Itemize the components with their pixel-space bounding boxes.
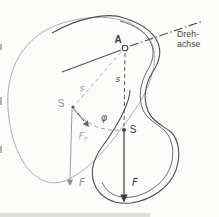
arm-rest-dashed	[124, 53, 125, 126]
restoring-force-arrowhead	[83, 120, 89, 127]
angle-label: φ	[101, 113, 108, 123]
restoring-force-label: Fr	[79, 131, 87, 144]
com-rest-dot	[122, 128, 126, 132]
plate-displaced-outline	[8, 17, 155, 183]
arm-rest-label: s	[116, 74, 121, 84]
restoring-force-label-sub: r	[84, 135, 87, 143]
com-rest-label: S	[130, 125, 137, 135]
weight-displaced-label: F	[79, 178, 85, 188]
weight-rest-label: F	[132, 178, 138, 188]
pivot-point	[122, 45, 128, 51]
scan-band-artifact	[0, 213, 150, 217]
rotation-axis-line-lower	[62, 50, 121, 72]
scan-edge-mark	[0, 44, 2, 50]
pendulum-diagram: A Dreh- achse s s S S φ Fr F F	[0, 0, 219, 217]
arm-displaced-label: s	[80, 83, 85, 93]
rotation-axis-label: Dreh- achse	[177, 30, 200, 49]
weight-displaced-vector	[70, 109, 72, 179]
rotation-axis-label-line2: achse	[177, 40, 200, 50]
pivot-label: A	[114, 35, 121, 45]
arm-displaced-dashed	[75, 52, 121, 105]
scan-edge-mark	[0, 146, 2, 153]
plate-rest-rim	[102, 21, 173, 197]
weight-displaced-arrowhead	[67, 180, 73, 187]
scan-edge-mark	[0, 97, 2, 105]
com-displaced-dot	[71, 105, 74, 108]
com-displaced-label: S	[58, 99, 65, 109]
weight-rest-arrowhead	[120, 195, 127, 203]
restoring-force-vector	[73, 108, 84, 121]
